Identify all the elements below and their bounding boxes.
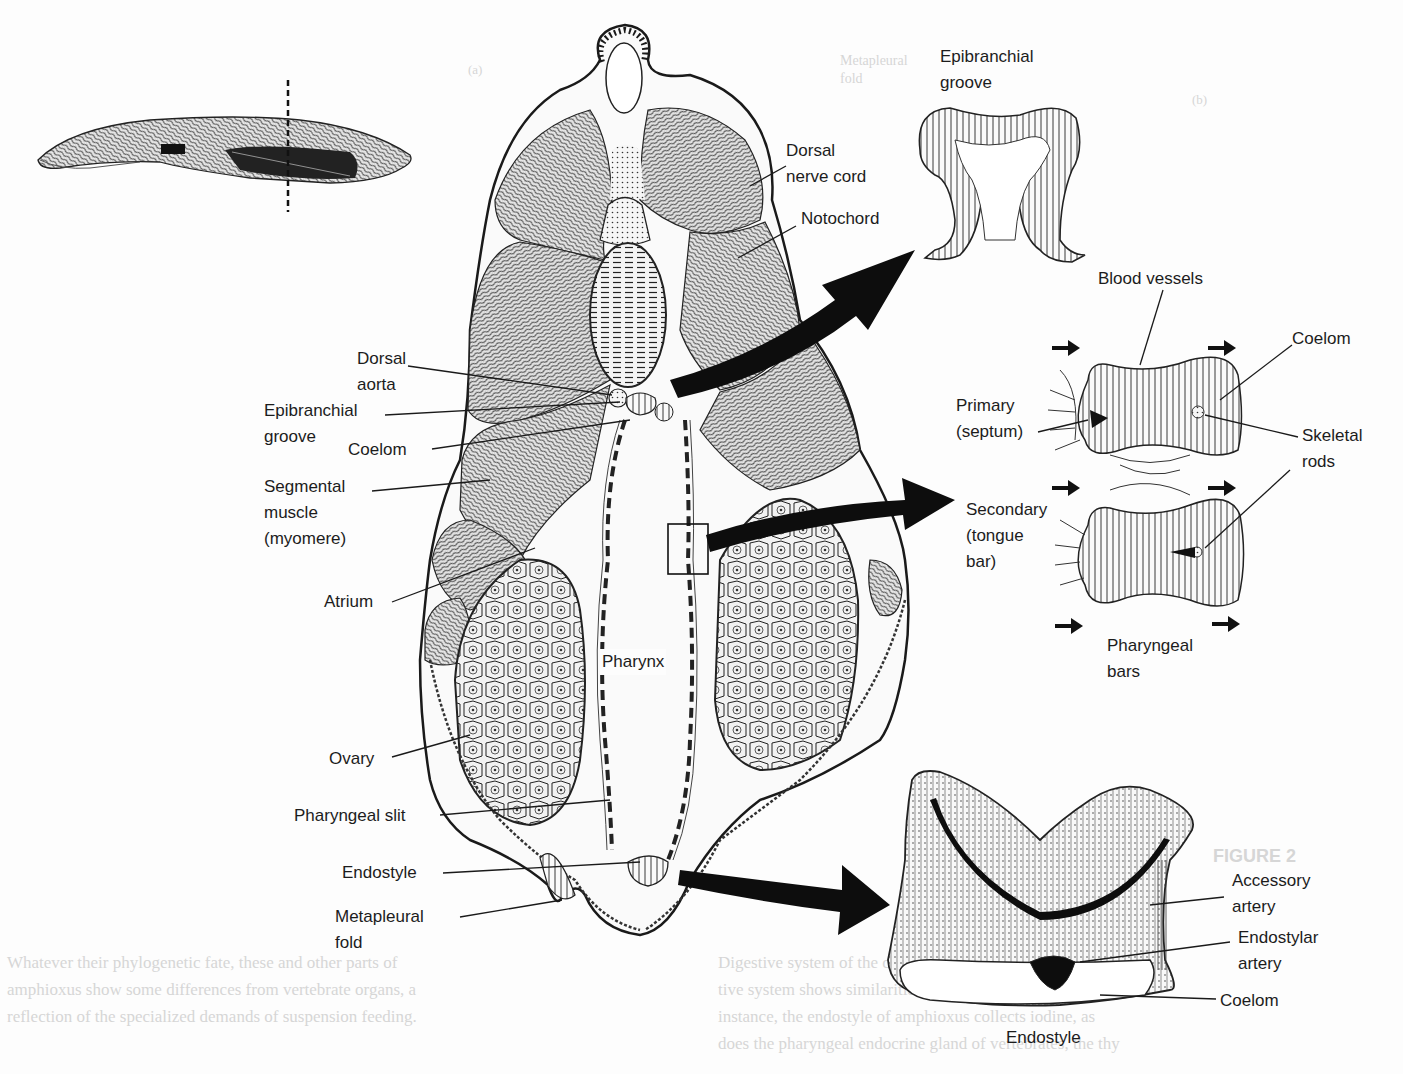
label-epibranchial-groove: Epibranchial groove <box>264 398 358 450</box>
inset-dark-block <box>161 144 185 154</box>
label-dorsal-aorta: Dorsal aorta <box>357 346 406 398</box>
label-secondary-tongue-bar: Secondary (tongue bar) <box>966 497 1047 575</box>
label-accessory-artery: Accessory artery <box>1232 868 1310 920</box>
label-endostyle-main: Endostyle <box>342 860 417 886</box>
label-ovary: Ovary <box>329 746 374 772</box>
label-notochord: Notochord <box>801 206 879 232</box>
label-endostylar-artery: Endostylar artery <box>1238 925 1318 977</box>
label-endostyle-inset: Endostyle <box>1006 1025 1081 1051</box>
label-segmental-muscle: Segmental muscle (myomere) <box>264 474 346 552</box>
pharyngeal-bars-inset <box>1048 340 1244 634</box>
epibranchial-groove-inset <box>919 108 1085 262</box>
label-epibranchial-groove-inset: Epibranchial groove <box>940 44 1034 96</box>
label-pharyngeal-slit: Pharyngeal slit <box>294 803 406 829</box>
endostyle-inset <box>888 771 1193 1006</box>
label-atrium: Atrium <box>324 589 373 615</box>
whole-animal-inset <box>38 80 411 212</box>
label-metapleural-fold: Metapleural fold <box>335 904 424 956</box>
label-blood-vessels: Blood vessels <box>1098 266 1203 292</box>
label-dorsal-nerve-cord: Dorsal nerve cord <box>786 138 866 190</box>
diagram-canvas <box>0 0 1403 1074</box>
label-primary-septum: Primary (septum) <box>956 393 1023 445</box>
label-coelom-bars: Coelom <box>1292 326 1351 352</box>
label-skeletal-rods: Skeletal rods <box>1302 423 1362 475</box>
label-pharyngeal-bars: Pharyngeal bars <box>1107 633 1193 685</box>
label-pharynx: Pharynx <box>600 649 666 675</box>
label-coelom-endostyle: Coelom <box>1220 988 1279 1014</box>
label-coelom-main: Coelom <box>348 437 407 463</box>
